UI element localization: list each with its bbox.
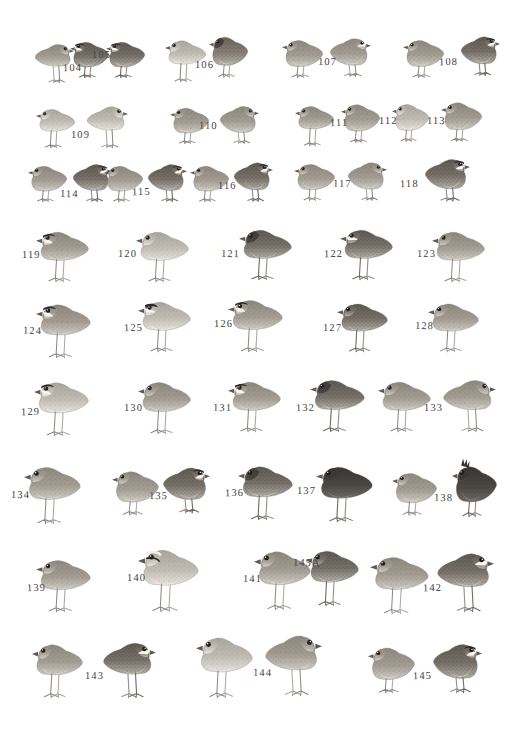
plate-number-128: 128 — [415, 320, 434, 332]
bird-figure-110 — [219, 100, 259, 149]
plate-number-145a: 145A — [293, 557, 321, 569]
bird-figure-122 — [340, 222, 394, 283]
plate-number-111: 111 — [330, 117, 349, 129]
bird-figure-134 — [24, 458, 82, 528]
plate-number-137: 137 — [297, 485, 316, 496]
plate-number-109: 109 — [71, 129, 90, 140]
plate-number-145: 145 — [413, 670, 432, 682]
bird-figure-117 — [347, 156, 387, 206]
bird-figure-119 — [36, 224, 90, 285]
bird-figure-133 — [442, 372, 496, 436]
plate-number-144: 144 — [253, 667, 272, 678]
bird-figure-129 — [34, 374, 90, 440]
bird-figure-123 — [432, 224, 486, 285]
plate-number-104: 104 — [63, 62, 82, 74]
bird-figure-142 — [436, 544, 494, 616]
plate-number-138: 138 — [434, 492, 453, 503]
bird-figure-118 — [424, 152, 470, 207]
plate-number-132: 132 — [296, 402, 315, 414]
plate-number-124: 124 — [23, 325, 42, 336]
bird-figure-137 — [316, 458, 374, 526]
plate-number-141: 141 — [243, 573, 262, 584]
bird-figure-130 — [138, 374, 192, 438]
bird-figure-121 — [239, 222, 293, 283]
bird-figure-115 — [147, 158, 187, 207]
plate-number-126: 126 — [214, 318, 233, 329]
bird-figure-125 — [138, 294, 192, 355]
plate-number-139: 139 — [27, 582, 46, 594]
bird-figure-131 — [228, 374, 282, 435]
bird-figure-142 — [370, 548, 430, 618]
illustration-plate: 1041051061071081091101111121131141151161… — [0, 0, 522, 737]
bird-figure-136 — [238, 458, 294, 524]
bird-figure-135 — [162, 460, 210, 519]
plate-number-130: 130 — [124, 402, 143, 413]
bird-figure-145a — [306, 542, 360, 610]
bird-figure-138 — [452, 458, 498, 524]
bird-figure-109 — [86, 100, 128, 151]
bird-figure-114 — [28, 160, 68, 207]
plate-number-140: 140 — [127, 572, 146, 583]
bird-figure-144 — [196, 628, 254, 702]
plate-number-134: 134 — [11, 489, 30, 500]
bird-figure-127 — [337, 296, 389, 355]
bird-figure-116 — [233, 156, 273, 207]
plate-number-120: 120 — [118, 248, 137, 259]
bird-figure-120 — [136, 224, 190, 285]
bird-figure-143 — [102, 634, 156, 702]
plate-number-117: 117 — [333, 178, 352, 189]
plate-number-113: 113 — [427, 115, 446, 126]
plate-number-105: 105 — [92, 49, 111, 60]
bird-figure-111 — [295, 100, 335, 149]
plate-number-115: 115 — [132, 186, 151, 197]
bird-figure-141 — [254, 542, 312, 614]
bird-figure-144 — [264, 626, 322, 700]
bird-figure-128 — [428, 296, 480, 355]
plate-number-118: 118 — [400, 178, 419, 190]
bird-figure-113 — [441, 96, 483, 147]
plate-number-112: 112 — [379, 115, 398, 126]
plate-number-127: 127 — [323, 322, 342, 333]
bird-figure-124 — [36, 296, 92, 362]
bird-figure-132 — [310, 372, 366, 436]
bird-figure-126 — [228, 292, 284, 356]
plate-number-123: 123 — [417, 248, 436, 259]
plate-number-136: 136 — [225, 487, 244, 498]
plate-number-142: 142 — [423, 582, 442, 593]
plate-number-119: 119 — [22, 249, 41, 260]
plate-number-135: 135 — [149, 490, 168, 502]
plate-number-107: 107 — [318, 56, 337, 68]
bird-figure-115 — [104, 160, 144, 207]
bird-figure-106 — [209, 30, 249, 83]
bird-figure-140 — [138, 540, 200, 616]
plate-number-108: 108 — [439, 56, 458, 67]
bird-figure-143 — [32, 636, 84, 702]
plate-number-143: 143 — [85, 670, 104, 681]
plate-number-133: 133 — [424, 402, 443, 413]
plate-number-106: 106 — [195, 59, 214, 70]
plate-number-125: 125 — [124, 322, 143, 334]
bird-figure-138 — [392, 466, 438, 521]
plate-number-116: 116 — [218, 180, 237, 191]
plate-number-121: 121 — [221, 248, 240, 260]
plate-number-122: 122 — [324, 248, 343, 259]
plate-number-129: 129 — [21, 406, 40, 417]
bird-figure-145 — [368, 640, 416, 699]
plate-number-114: 114 — [60, 188, 79, 200]
plate-number-131: 131 — [213, 402, 232, 413]
bird-figure-109 — [36, 103, 76, 151]
bird-figure-105 — [106, 36, 146, 83]
bird-figure-145 — [432, 636, 482, 700]
bird-figure-108 — [460, 30, 500, 81]
bird-figure-117 — [294, 158, 336, 206]
plate-number-110: 110 — [199, 120, 218, 131]
